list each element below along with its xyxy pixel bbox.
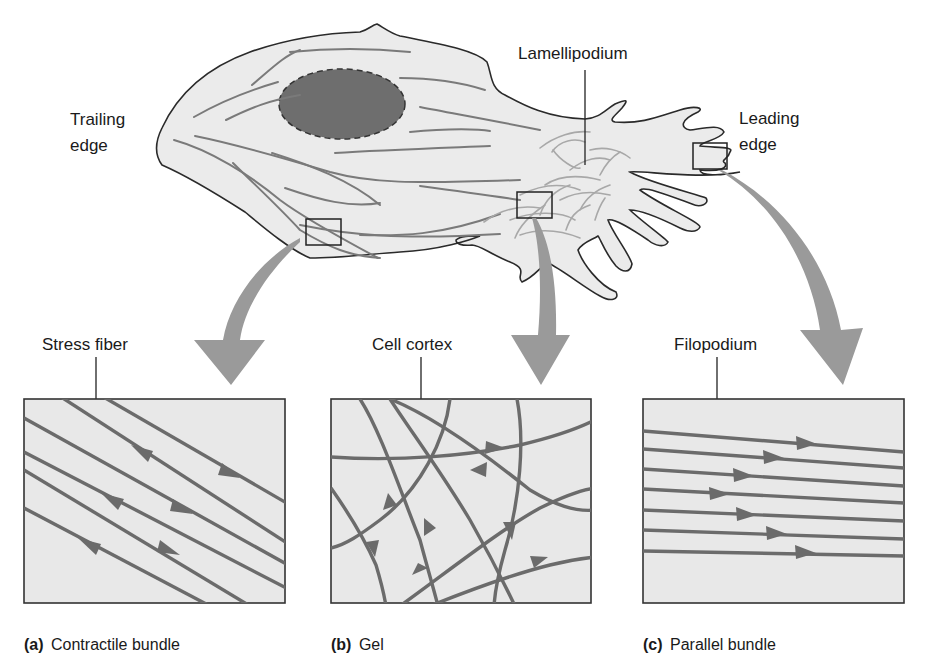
arrow-to-panel-a bbox=[194, 238, 300, 385]
cell-body bbox=[156, 24, 740, 299]
panel-a-contractile-bundle bbox=[24, 395, 290, 606]
callout-stress-fiber: Stress fiber bbox=[42, 335, 128, 354]
callout-filopodium: Filopodium bbox=[674, 335, 757, 354]
label-trailing-edge-2: edge bbox=[70, 136, 108, 155]
label-leading-edge-1: Leading bbox=[739, 109, 800, 128]
nucleus bbox=[279, 69, 405, 139]
migrating-cell bbox=[156, 24, 740, 299]
callout-cell-cortex: Cell cortex bbox=[372, 335, 453, 354]
actin-organization-diagram: Trailing edge Lamellipodium Leading edge… bbox=[0, 0, 925, 667]
label-lamellipodium: Lamellipodium bbox=[518, 44, 628, 63]
caption-c: (c) Parallel bundle bbox=[643, 636, 776, 653]
caption-a: (a) Contractile bundle bbox=[24, 636, 180, 653]
label-leading-edge-2: edge bbox=[739, 135, 777, 154]
caption-b: (b) Gel bbox=[331, 636, 384, 653]
label-trailing-edge-1: Trailing bbox=[70, 110, 125, 129]
panel-c-parallel-bundle bbox=[643, 399, 904, 603]
panel-b-gel bbox=[331, 399, 595, 606]
panel-a-frame bbox=[24, 399, 285, 603]
